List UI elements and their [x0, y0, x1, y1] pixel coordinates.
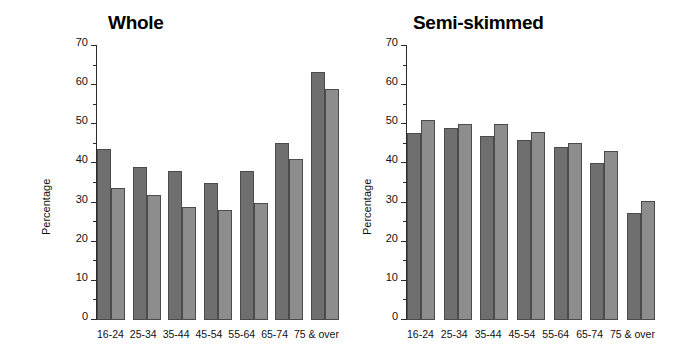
y-tick-label-40-semi: 40: [386, 154, 398, 165]
bar-series-2-16-24-semi: [421, 120, 435, 320]
bar-series-2-55-64-whole: [254, 203, 268, 320]
x-axis-label-25-34-whole: 25-34: [130, 320, 157, 340]
bar-group-35-44-whole: [168, 46, 196, 320]
bar-series-2-45-54-semi: [531, 132, 545, 320]
bar-group-16-24-semi: [407, 46, 435, 320]
y-tick-label-30-whole: 30: [76, 194, 88, 205]
bar-series-1-55-64-semi: [554, 147, 568, 320]
x-axis-label-55-64-semi: 55-64: [542, 320, 569, 340]
bar-series-2-25-34-semi: [458, 124, 472, 320]
y-tick-label-20-semi: 20: [386, 233, 398, 244]
x-axis-label-25-34-semi: 25-34: [441, 320, 468, 340]
figure-two-panel-bar-charts: Whole Percentage 010203040506070 16-2425…: [0, 0, 689, 363]
bar-group-25-34-semi: [444, 46, 472, 320]
bar-group-55-64-semi: [554, 46, 582, 320]
bar-group-25-34-whole: [133, 46, 161, 320]
x-axis-labels-semi-skimmed: 16-2425-3435-4445-5455-6465-7475 & over: [407, 320, 655, 340]
y-tick-label-0-whole: 0: [82, 311, 88, 322]
y-tick-label-50-semi: 50: [386, 115, 398, 126]
y-tick-label-10-whole: 10: [76, 272, 88, 283]
chart-title-semi-skimmed: Semi-skimmed: [413, 12, 544, 34]
x-axis-label-35-44-semi: 35-44: [475, 320, 502, 340]
bar-series-1-45-54-semi: [517, 140, 531, 320]
x-axis-label-45-54-whole: 45-54: [195, 320, 222, 340]
bar-series-2-35-44-whole: [182, 207, 196, 321]
bar-series-1-75-over-semi: [627, 213, 641, 320]
bar-group-45-54-whole: [204, 46, 232, 320]
x-axis-label-65-74-whole: 65-74: [261, 320, 288, 340]
x-axis-label-16-24-whole: 16-24: [97, 320, 124, 340]
chart-panel-semi-skimmed: Semi-skimmed Percentage 010203040506070 …: [345, 0, 689, 363]
y-tick-label-0-semi: 0: [392, 311, 398, 322]
y-axis-label-semi-skimmed: Percentage: [361, 179, 373, 235]
y-tick-label-70-whole: 70: [76, 37, 88, 48]
bar-group-75-over-semi: [627, 46, 655, 320]
x-axis-labels-whole: 16-2425-3435-4445-5455-6465-7475 & over: [97, 320, 339, 340]
bar-series-2-75-over-whole: [325, 89, 339, 320]
x-axis-label-45-54-semi: 45-54: [508, 320, 535, 340]
bar-group-35-44-semi: [480, 46, 508, 320]
bar-series-2-65-74-whole: [289, 159, 303, 320]
bar-series-2-55-64-semi: [568, 143, 582, 320]
y-tick-label-40-whole: 40: [76, 154, 88, 165]
bar-series-2-16-24-whole: [111, 188, 125, 320]
bar-groups-semi-skimmed: [407, 46, 655, 320]
bar-group-65-74-whole: [275, 46, 303, 320]
x-axis-label-55-64-whole: 55-64: [228, 320, 255, 340]
bar-group-65-74-semi: [590, 46, 618, 320]
bar-series-1-65-74-whole: [275, 143, 289, 320]
bar-series-1-25-34-semi: [444, 128, 458, 320]
bar-series-1-16-24-whole: [97, 149, 111, 320]
y-tick-label-50-whole: 50: [76, 115, 88, 126]
y-tick-label-20-whole: 20: [76, 233, 88, 244]
bar-series-2-65-74-semi: [604, 151, 618, 320]
x-axis-label-16-24-semi: 16-24: [407, 320, 434, 340]
bar-series-1-75-over-whole: [311, 72, 325, 320]
bar-series-1-55-64-whole: [240, 171, 254, 320]
bar-series-2-25-34-whole: [147, 195, 161, 320]
plot-area-whole: 010203040506070 16-2425-3435-4445-5455-6…: [97, 46, 339, 320]
bar-group-55-64-whole: [240, 46, 268, 320]
bar-series-2-45-54-whole: [218, 210, 232, 320]
bar-series-1-35-44-whole: [168, 171, 182, 320]
bar-group-45-54-semi: [517, 46, 545, 320]
bar-series-1-35-44-semi: [480, 136, 494, 320]
bar-group-16-24-whole: [97, 46, 125, 320]
bar-series-2-35-44-semi: [494, 124, 508, 320]
chart-panel-whole: Whole Percentage 010203040506070 16-2425…: [0, 0, 345, 363]
bar-series-1-16-24-semi: [407, 133, 421, 320]
bar-series-2-75-over-semi: [641, 201, 655, 320]
x-axis-label-75-over-semi: 75 & over: [610, 320, 655, 340]
x-axis-label-75-over-whole: 75 & over: [294, 320, 339, 340]
x-axis-label-35-44-whole: 35-44: [163, 320, 190, 340]
bar-groups-whole: [97, 46, 339, 320]
bar-series-1-65-74-semi: [590, 163, 604, 320]
y-tick-label-70-semi: 70: [386, 37, 398, 48]
chart-title-whole: Whole: [108, 12, 164, 34]
y-axis-label-whole: Percentage: [40, 179, 52, 235]
bar-group-75-over-whole: [311, 46, 339, 320]
y-tick-label-60-semi: 60: [386, 76, 398, 87]
plot-area-semi-skimmed: 010203040506070 16-2425-3435-4445-5455-6…: [407, 46, 655, 320]
y-tick-label-60-whole: 60: [76, 76, 88, 87]
bar-series-1-25-34-whole: [133, 167, 147, 320]
x-axis-label-65-74-semi: 65-74: [576, 320, 603, 340]
bar-series-1-45-54-whole: [204, 183, 218, 320]
y-tick-label-30-semi: 30: [386, 194, 398, 205]
y-tick-label-10-semi: 10: [386, 272, 398, 283]
